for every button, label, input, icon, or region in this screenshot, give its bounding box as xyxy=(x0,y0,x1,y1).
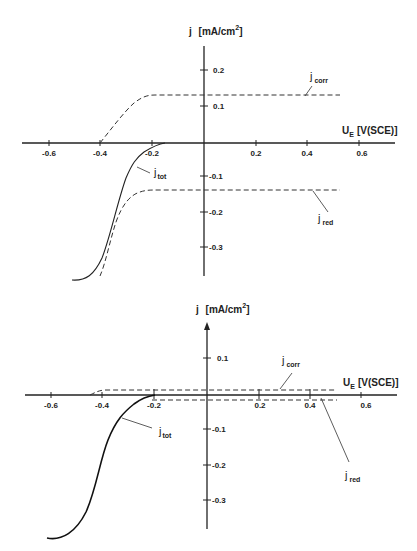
bottom-j-red-label: jred xyxy=(344,469,360,483)
top-j-tot-leader xyxy=(137,167,150,173)
top-xtick-label: 0.6 xyxy=(356,149,368,158)
top-y-axis-label: j [mA/cm2] xyxy=(188,24,243,37)
bottom-series-j-corr xyxy=(90,390,337,395)
bottom-x-axis-label: UE[V(SCE)] xyxy=(343,377,398,390)
top-ytick-label: 0.1 xyxy=(213,102,225,111)
bottom-y-axis-arrow-icon xyxy=(204,322,210,330)
bottom-y-axis-label: j [mA/cm2] xyxy=(195,302,250,315)
bottom-series-j-tot xyxy=(47,395,155,539)
top-j-corr-label: jcorr xyxy=(309,70,328,84)
bottom-xtick-label: 0.2 xyxy=(254,401,266,410)
bottom-j-tot-leader xyxy=(122,418,152,428)
top-j-red-leader xyxy=(313,191,328,212)
bottom-chart: -0.6 -0.4 -0.2 0.2 0.4 0.6 0.1 -0.1 -0.2… xyxy=(25,302,398,539)
bottom-xtick-label: 0.4 xyxy=(304,401,316,410)
top-xtick-label: 0.2 xyxy=(250,149,262,158)
top-xtick-label: 0.4 xyxy=(301,149,313,158)
bottom-j-corr-label: jcorr xyxy=(281,354,300,368)
bottom-xtick-label: -0.4 xyxy=(95,401,109,410)
top-ytick-label: -0.1 xyxy=(209,172,223,181)
top-series-j-red xyxy=(100,190,340,276)
top-j-red-label: jred xyxy=(317,212,333,226)
top-ytick-label: -0.2 xyxy=(209,208,223,217)
bottom-ytick-label: -0.1 xyxy=(212,425,226,434)
bottom-j-corr-leader xyxy=(280,373,292,389)
top-ytick-label: 0.2 xyxy=(213,66,225,75)
top-j-tot-label: jtot xyxy=(153,166,167,180)
bottom-xtick-label: -0.2 xyxy=(147,401,161,410)
top-xtick-label: -0.6 xyxy=(42,149,56,158)
bottom-j-tot-label: jtot xyxy=(158,425,172,439)
figure: -0.6 -0.4 -0.2 0.2 0.4 0.6 0.2 0.1 -0.1 … xyxy=(0,0,417,551)
bottom-xtick-label: 0.6 xyxy=(360,401,372,410)
bottom-j-red-leader xyxy=(321,398,349,462)
top-chart: -0.6 -0.4 -0.2 0.2 0.4 0.6 0.2 0.1 -0.1 … xyxy=(22,24,397,280)
bottom-ytick-label: 0.1 xyxy=(217,354,229,363)
top-series-j-tot xyxy=(72,143,165,280)
top-x-axis-label: UE[V(SCE)] xyxy=(342,125,397,138)
bottom-ytick-label: -0.3 xyxy=(212,496,226,505)
bottom-xtick-label: -0.6 xyxy=(44,401,58,410)
top-ytick-label: -0.3 xyxy=(209,243,223,252)
top-xtick-label: -0.4 xyxy=(93,149,107,158)
bottom-ytick-label: -0.2 xyxy=(212,461,226,470)
